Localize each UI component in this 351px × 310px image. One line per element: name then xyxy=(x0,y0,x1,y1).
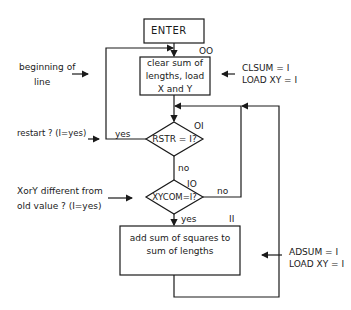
xycom-no-label: no xyxy=(217,186,228,197)
clear-label: clear sum of lengths, load X and Y xyxy=(140,57,210,96)
clsum-line1: CLSUM = I xyxy=(242,63,289,74)
add-label: add sum of squares to sum of lengths xyxy=(120,232,240,258)
restart-annotation: restart ? (I=yes) xyxy=(17,128,86,139)
beginning-line2: line xyxy=(34,77,50,88)
rstr-yes-label: yes xyxy=(115,129,131,140)
adsum-line1: ADSUM = I xyxy=(289,247,338,258)
xycom-id: IO xyxy=(187,179,197,190)
rstr-label: RSTR = I? xyxy=(146,134,203,145)
rstr-no-label: no xyxy=(178,163,189,174)
rstr-id: OI xyxy=(194,121,204,132)
xory-line1: XorY different from xyxy=(17,186,103,197)
clsum-line2: LOAD XY = I xyxy=(242,75,297,86)
enter-label: ENTER xyxy=(151,25,187,36)
xycom-yes-label: yes xyxy=(181,214,197,225)
xycom-label: XYCOM=I? xyxy=(146,192,203,203)
clear-id: OO xyxy=(199,46,213,57)
add-line2: sum of lengths xyxy=(120,245,240,258)
xory-line2: old value ? (I=yes) xyxy=(17,201,101,212)
add-id: II xyxy=(229,214,234,225)
adsum-line2: LOAD XY = I xyxy=(289,259,344,270)
add-line1: add sum of squares to xyxy=(120,232,240,245)
beginning-line1: beginning of xyxy=(19,62,75,73)
clear-line2: lengths, load xyxy=(140,70,210,83)
clear-line3: X and Y xyxy=(140,83,210,96)
clear-line1: clear sum of xyxy=(140,57,210,70)
